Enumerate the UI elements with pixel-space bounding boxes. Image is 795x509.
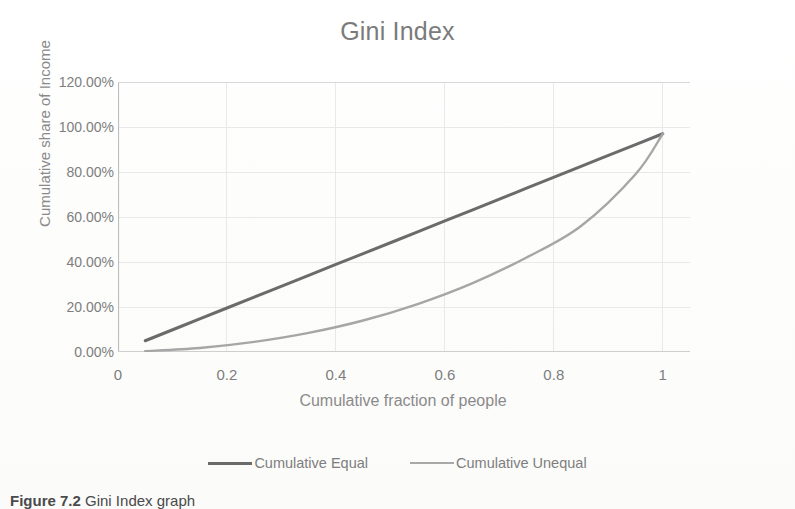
x-axis-tick-label: 0.6 — [434, 367, 455, 382]
figure-caption: Figure 7.2 Gini Index graph — [10, 492, 195, 509]
legend-entry[interactable]: Cumulative Equal — [208, 455, 368, 471]
figure-caption-text: Gini Index graph — [85, 492, 195, 509]
legend-label: Cumulative Equal — [254, 455, 368, 471]
x-axis-tick-label: 0.2 — [217, 367, 238, 382]
x-axis-title: Cumulative fraction of people — [118, 392, 688, 410]
legend-entry[interactable]: Cumulative Unequal — [410, 455, 587, 471]
chart-legend: Cumulative EqualCumulative Unequal — [0, 455, 795, 471]
gini-index-chart-figure: Gini Index Cumulative share of Income 0.… — [0, 0, 795, 509]
figure-caption-prefix: Figure 7.2 — [10, 492, 81, 509]
x-axis-tick-label: 0.4 — [325, 367, 346, 382]
legend-line-swatch — [208, 462, 252, 465]
x-axis-tick-label: 0.8 — [543, 367, 564, 382]
legend-label: Cumulative Unequal — [456, 455, 587, 471]
plot-svg — [118, 82, 690, 352]
x-axis-tick-label: 0 — [114, 367, 122, 382]
legend-line-swatch — [410, 462, 454, 464]
plot-area — [118, 82, 690, 352]
x-axis-tick-label: 1 — [659, 367, 667, 382]
